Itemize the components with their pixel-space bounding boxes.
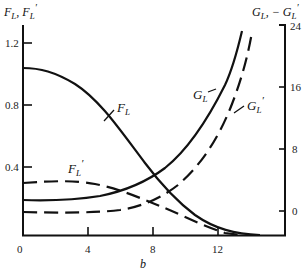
x-tick-label: 0 bbox=[17, 243, 23, 255]
label-f-l: FL bbox=[116, 100, 130, 117]
figure-caption: b bbox=[140, 257, 146, 271]
label-g-l: GL bbox=[193, 87, 207, 104]
x-tick-label: 8 bbox=[150, 243, 156, 255]
curve-f-l bbox=[23, 68, 260, 235]
right-axis-title: GL, − GL′ bbox=[252, 2, 299, 21]
curves bbox=[23, 31, 260, 235]
y-right-tick-label: 8 bbox=[292, 143, 298, 155]
x-tick-labels: 0 4 8 12 bbox=[17, 243, 223, 255]
y-right-tick-label: 0 bbox=[292, 205, 298, 217]
y-right-tick-label: 24 bbox=[290, 20, 302, 32]
y-left-tick-label: 0.8 bbox=[5, 99, 19, 111]
x-tick-label: 4 bbox=[85, 243, 91, 255]
label-f-l-prime: FL′ bbox=[67, 157, 84, 178]
left-axis-title: FL, FL′ bbox=[3, 2, 38, 21]
right-y-tick-labels: 24 16 8 0 bbox=[290, 20, 302, 217]
y-right-tick-label: 16 bbox=[290, 81, 302, 93]
curve-g-l-prime bbox=[23, 32, 252, 213]
ticks bbox=[23, 43, 285, 235]
y-left-tick-label: 1.2 bbox=[5, 37, 19, 49]
line-chart: 1.2 0.8 0.4 24 16 8 0 0 4 8 12 FL, FL′ G… bbox=[0, 0, 308, 275]
x-tick-label: 12 bbox=[212, 243, 223, 255]
curve-g-l bbox=[23, 31, 242, 200]
label-g-l-prime: GL′ bbox=[247, 94, 264, 115]
y-left-tick-label: 0.4 bbox=[5, 161, 19, 173]
left-y-tick-labels: 1.2 0.8 0.4 bbox=[5, 37, 19, 173]
